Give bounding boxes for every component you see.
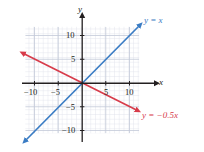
graph-figure: −10 −5 5 10 10 5 −5 −10 x y y = x y = −0…: [0, 0, 204, 152]
coordinate-plane-svg: [0, 0, 204, 152]
